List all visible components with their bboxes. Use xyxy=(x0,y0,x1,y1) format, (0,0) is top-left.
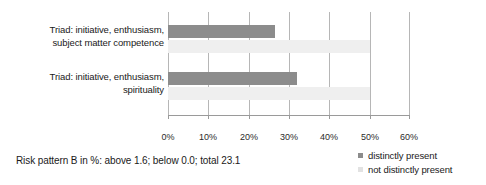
x-tick-label-10: 10% xyxy=(188,132,228,142)
bar-distinctly-present-1 xyxy=(168,72,297,85)
legend-item-not-distinctly-present: not distinctly present xyxy=(358,162,452,176)
bar-not-distinctly-present-1 xyxy=(168,87,370,100)
light-square-swatch-icon xyxy=(358,167,363,172)
bar-distinctly-present-0 xyxy=(168,25,275,38)
legend-label-1: not distinctly present xyxy=(368,164,452,175)
category-label-0: Triad: initiative, enthusiasm, subject m… xyxy=(4,24,164,49)
category-label-0-line-1: subject matter competence xyxy=(4,37,164,50)
x-tick-label-30: 30% xyxy=(269,132,309,142)
tick-mark-40 xyxy=(329,115,330,119)
category-label-1-line-1: spirituality xyxy=(4,84,164,97)
tick-mark-30 xyxy=(289,115,290,119)
category-label-1: Triad: initiative, enthusiasm, spiritual… xyxy=(4,71,164,96)
x-tick-label-20: 20% xyxy=(229,132,269,142)
tick-mark-60 xyxy=(409,115,410,119)
x-tick-label-60: 60% xyxy=(389,132,429,142)
dark-square-swatch-icon xyxy=(358,153,363,158)
category-label-1-line-0: Triad: initiative, enthusiasm, xyxy=(4,71,164,84)
gridline-50 xyxy=(370,12,371,115)
gridline-60 xyxy=(409,12,410,115)
legend-label-0: distinctly present xyxy=(368,150,437,161)
x-tick-label-40: 40% xyxy=(309,132,349,142)
category-label-0-line-0: Triad: initiative, enthusiasm, xyxy=(4,24,164,37)
x-tick-label-50: 50% xyxy=(350,132,390,142)
legend-item-distinctly-present: distinctly present xyxy=(358,148,452,162)
tick-mark-0 xyxy=(168,115,169,119)
tick-mark-10 xyxy=(208,115,209,119)
bar-not-distinctly-present-0 xyxy=(168,40,370,53)
bar-chart-figure: Triad: initiative, enthusiasm, subject m… xyxy=(0,0,486,185)
chart-caption: Risk pattern B in %: above 1.6; below 0.… xyxy=(16,155,240,166)
tick-mark-50 xyxy=(370,115,371,119)
chart-legend: distinctly present not distinctly presen… xyxy=(358,148,452,176)
x-tick-label-0: 0% xyxy=(148,132,188,142)
plot-area: 0% 10% 20% 30% 40% 50% 60% xyxy=(168,12,410,115)
tick-mark-20 xyxy=(249,115,250,119)
